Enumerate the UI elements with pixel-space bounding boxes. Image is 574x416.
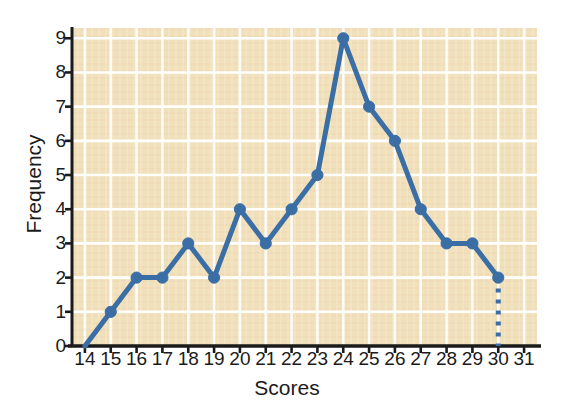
frequency-polygon-chart: Frequency Scores 0123456789 141516171819… — [0, 0, 574, 416]
plot-canvas — [0, 0, 574, 416]
plot-background — [72, 28, 537, 346]
